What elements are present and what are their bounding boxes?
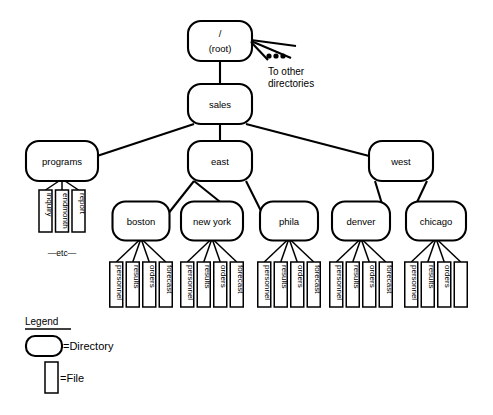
file-label: personnel bbox=[115, 265, 124, 300]
file-node-chicago-orders[interactable]: orders bbox=[438, 262, 453, 307]
file-node-phila-forecast[interactable]: forecast bbox=[307, 262, 322, 307]
directory-tree-svg: inquiryendmonthreportpersonnelresultsord… bbox=[0, 0, 493, 415]
file-nodes-layer: inquiryendmonthreportpersonnelresultsord… bbox=[39, 190, 467, 307]
file-label: personnel bbox=[410, 265, 419, 300]
file-label: personnel bbox=[335, 265, 344, 300]
file-label: forecast bbox=[236, 265, 245, 294]
file-label: results bbox=[352, 265, 361, 289]
directory-label-sales: sales bbox=[209, 99, 231, 110]
file-node-denver-personnel[interactable]: personnel bbox=[330, 262, 345, 307]
file-label: orders bbox=[368, 265, 377, 288]
file-label: results bbox=[427, 265, 436, 289]
file-node-programs-inquiry[interactable]: inquiry bbox=[39, 190, 54, 232]
directory-node-chicago[interactable]: chicago bbox=[406, 202, 466, 241]
file-label: forecast bbox=[313, 265, 322, 294]
file-label: orders bbox=[148, 265, 157, 288]
file-label: report bbox=[78, 193, 87, 215]
file-label: inquiry bbox=[45, 193, 54, 217]
file-label: results bbox=[132, 265, 141, 289]
etc-label: —etc— bbox=[48, 248, 77, 258]
legend-title: Legend bbox=[25, 316, 58, 327]
file-node-phila-personnel[interactable]: personnel bbox=[258, 262, 273, 307]
file-node-chicago-unlabeled[interactable] bbox=[454, 262, 467, 307]
other-directories-fan: To other directories bbox=[251, 40, 314, 89]
file-label: results bbox=[203, 265, 212, 289]
file-node-chicago-results[interactable]: results bbox=[421, 262, 436, 307]
directory-node-phila[interactable]: phila bbox=[260, 202, 318, 241]
legend: Legend =Directory =File bbox=[25, 316, 114, 393]
directory-label-root-line1: / bbox=[219, 28, 222, 39]
file-node-phila-orders[interactable]: orders bbox=[291, 262, 306, 307]
file-node-newyork-results[interactable]: results bbox=[197, 262, 212, 307]
file-node-boston-orders[interactable]: orders bbox=[143, 262, 158, 307]
edges-layer bbox=[94, 61, 427, 217]
directory-node-newyork[interactable]: new york bbox=[181, 202, 243, 241]
ellipsis-dot-2 bbox=[273, 53, 278, 58]
file-node-denver-forecast[interactable]: forecast bbox=[379, 262, 394, 307]
directory-label-root-line2: (root) bbox=[209, 43, 232, 54]
directory-label-denver: denver bbox=[346, 216, 375, 227]
file-node-denver-orders[interactable]: orders bbox=[363, 262, 378, 307]
directory-node-east[interactable]: east bbox=[188, 141, 252, 181]
file-node-newyork-orders[interactable]: orders bbox=[214, 262, 229, 307]
other-directories-label-line1: To other bbox=[268, 66, 305, 77]
directory-label-chicago: chicago bbox=[420, 216, 453, 227]
file-label: personnel bbox=[186, 265, 195, 300]
file-label: personnel bbox=[263, 265, 272, 300]
directory-node-sales[interactable]: sales bbox=[188, 84, 252, 124]
directory-label-newyork: new york bbox=[193, 216, 231, 227]
file-node-newyork-forecast[interactable]: forecast bbox=[230, 262, 245, 307]
file-node-programs-endmonth[interactable]: endmonth bbox=[56, 190, 71, 232]
legend-directory-label: =Directory bbox=[63, 340, 114, 352]
file-shape bbox=[454, 262, 467, 307]
directory-node-root[interactable]: /(root) bbox=[188, 21, 252, 61]
diagram-canvas: inquiryendmonthreportpersonnelresultsord… bbox=[0, 0, 493, 415]
legend-directory-shape bbox=[26, 336, 62, 356]
file-node-boston-personnel[interactable]: personnel bbox=[110, 262, 125, 307]
edge-sales-to-west bbox=[246, 124, 373, 157]
directory-node-boston[interactable]: boston bbox=[113, 202, 170, 241]
directory-label-phila: phila bbox=[279, 216, 300, 227]
legend-file-label: =File bbox=[60, 372, 84, 384]
directory-node-programs[interactable]: programs bbox=[26, 141, 98, 181]
file-node-programs-report[interactable]: report bbox=[72, 190, 87, 232]
file-connectors-layer bbox=[46, 179, 461, 262]
ellipsis-dot-3 bbox=[280, 53, 285, 58]
other-directories-label-line2: directories bbox=[268, 78, 314, 89]
legend-file-shape bbox=[45, 362, 58, 393]
ellipsis-dot-1 bbox=[266, 53, 271, 58]
directory-label-west: west bbox=[390, 156, 411, 167]
directory-label-east: east bbox=[211, 156, 229, 167]
file-node-phila-results[interactable]: results bbox=[274, 262, 289, 307]
directory-node-west[interactable]: west bbox=[369, 141, 433, 181]
file-label: orders bbox=[219, 265, 228, 288]
file-node-chicago-personnel[interactable]: personnel bbox=[405, 262, 420, 307]
file-node-boston-results[interactable]: results bbox=[126, 262, 141, 307]
file-label: endmonth bbox=[61, 193, 70, 229]
edge-sales-to-programs bbox=[94, 124, 194, 157]
file-label: orders bbox=[443, 265, 452, 288]
file-label: forecast bbox=[385, 265, 394, 294]
file-label: orders bbox=[296, 265, 305, 288]
directory-label-programs: programs bbox=[42, 156, 82, 167]
file-label: results bbox=[280, 265, 289, 289]
directory-nodes-layer: /(root)salesprogramseastwestbostonnew yo… bbox=[26, 21, 466, 241]
file-node-boston-forecast[interactable]: forecast bbox=[159, 262, 174, 307]
file-node-denver-results[interactable]: results bbox=[346, 262, 361, 307]
directory-label-boston: boston bbox=[127, 216, 156, 227]
file-node-newyork-personnel[interactable]: personnel bbox=[181, 262, 196, 307]
file-label: forecast bbox=[165, 265, 174, 294]
directory-node-denver[interactable]: denver bbox=[332, 202, 390, 241]
